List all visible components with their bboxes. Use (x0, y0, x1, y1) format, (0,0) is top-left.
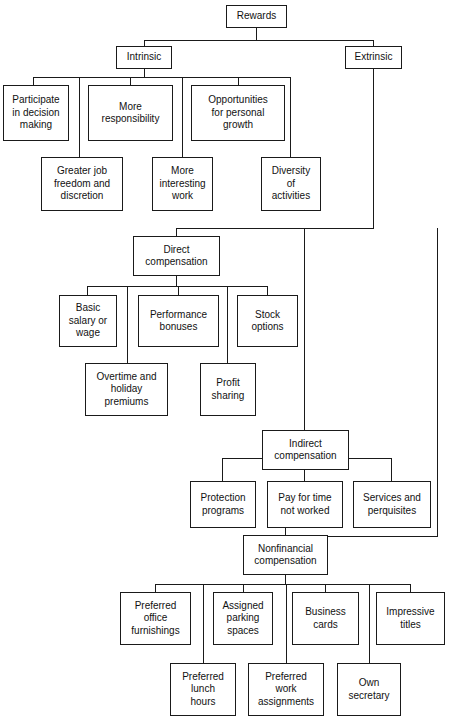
node-opportunities: Opportunities for personal growth (191, 85, 285, 141)
rewards-hierarchy-diagram: RewardsIntrinsicExtrinsicParticipate in … (0, 0, 455, 728)
connector-drop-profitshare (227, 286, 228, 364)
node-moreresp: More responsibility (88, 85, 173, 141)
node-stockoptions: Stock options (237, 295, 298, 347)
connector-bottom-bus (155, 584, 411, 585)
node-overtime: Overtime and holiday premiums (85, 363, 168, 416)
node-extrinsic: Extrinsic (345, 46, 402, 69)
connector-drop-overtime (127, 286, 128, 364)
connector-to-indirect-line (304, 228, 305, 432)
connector-drop-prefwork (286, 584, 287, 664)
node-preflunch: Preferred lunch hours (170, 663, 236, 716)
connector-drop-moreinterest (182, 77, 183, 158)
node-payfortime: Pay for time not worked (267, 481, 343, 528)
connector-indirect-bus-r (348, 458, 392, 459)
node-impressive: Impressive titles (376, 592, 445, 645)
node-ownsecretary: Own secretary (337, 663, 401, 716)
node-prefoffice: Preferred office furnishings (120, 592, 191, 645)
node-direct: Direct compensation (133, 236, 220, 276)
connector-right-rail (437, 228, 438, 537)
node-participate: Participate in decision making (3, 85, 69, 141)
node-perfbonus: Performance bonuses (138, 295, 219, 347)
node-nonfinancial: Nonfinancial compensation (243, 535, 328, 575)
node-greaterjob: Greater job freedom and discretion (41, 157, 123, 211)
node-moreinteresting: More interesting work (152, 157, 213, 211)
node-businesscards: Business cards (292, 592, 359, 645)
node-protection: Protection programs (190, 481, 256, 528)
connector-drop-preflunch (203, 584, 204, 664)
connector-intrinsic-bus (33, 77, 290, 78)
node-assignedparking: Assigned parking spaces (213, 592, 273, 645)
connector-drop-protection (222, 458, 223, 482)
node-indirect: Indirect compensation (262, 430, 349, 470)
connector-drop-diversity (290, 77, 291, 158)
connector-drop-greaterjob (79, 77, 80, 158)
connector-indirect-bus-l (222, 458, 263, 459)
node-rewards: Rewards (226, 5, 287, 28)
node-profitsharing: Profit sharing (200, 363, 256, 416)
connector-extrinsic-stem (373, 69, 374, 228)
node-prefwork: Preferred work assignments (248, 663, 324, 716)
node-services: Services and perquisites (353, 481, 431, 528)
connector-drop-services (391, 458, 392, 482)
node-basicsalary: Basic salary or wage (59, 295, 117, 347)
node-intrinsic: Intrinsic (116, 46, 172, 69)
connector-rewards-bus (144, 40, 374, 41)
node-diversity: Diversity of activities (261, 157, 321, 211)
connector-drop-ownsecretary (369, 584, 370, 664)
connector-extrinsic-bus (176, 228, 374, 229)
